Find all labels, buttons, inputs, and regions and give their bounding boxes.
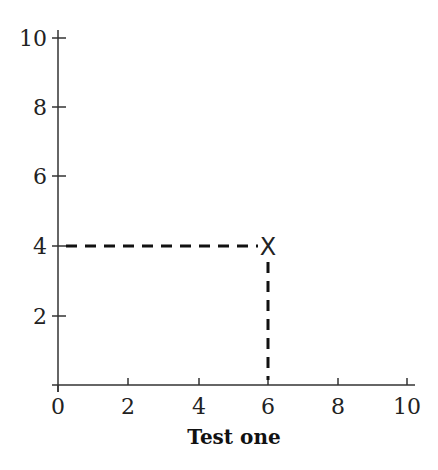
x-tick-8: 8 [331,394,345,419]
x-tick-2: 2 [121,394,135,419]
x-tick-labels: 0 2 4 6 8 10 [51,394,421,419]
x-axis-title: Test one [187,425,280,449]
x-tick-10: 10 [393,394,421,419]
y-tick-8: 8 [33,95,47,120]
y-tick-10: 10 [19,26,47,51]
x-tick-0: 0 [51,394,65,419]
x-tick-6: 6 [261,394,275,419]
y-tick-2: 2 [33,304,47,329]
data-point-marker: X [260,233,276,261]
chart: 10 8 6 4 2 0 2 4 6 8 10 Test one X [0,0,438,470]
y-tick-6: 6 [33,164,47,189]
y-ticks [52,38,66,316]
x-tick-4: 4 [192,394,206,419]
y-tick-labels: 10 8 6 4 2 [19,26,47,329]
y-tick-4: 4 [33,234,47,259]
